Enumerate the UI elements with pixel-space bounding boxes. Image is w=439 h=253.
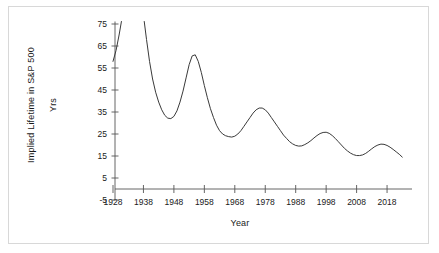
line-chart: Implied Lifetime in S&P 500 Yrs Year -55… [0,0,439,253]
tick-marks [112,24,388,200]
plot-area [0,0,439,253]
axis-lines [115,22,412,201]
data-series-group [113,22,402,158]
